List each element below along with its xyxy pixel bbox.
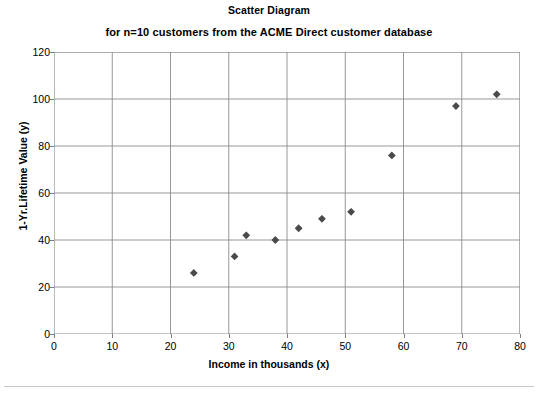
data-point-marker	[296, 225, 302, 231]
y-axis-tick-label: 0	[10, 329, 50, 339]
y-axis-tick-label: 120	[10, 47, 50, 57]
data-point-marker	[453, 103, 459, 109]
x-axis-tick-mark	[229, 334, 230, 338]
y-axis-tick-mark	[50, 240, 54, 241]
x-axis-tick-mark	[345, 334, 346, 338]
data-point-marker	[272, 237, 278, 243]
x-axis-tick-mark	[171, 334, 172, 338]
plot-area	[54, 52, 520, 334]
x-axis-tick-label: 50	[325, 341, 365, 351]
chart-title: Scatter Diagram	[0, 4, 538, 16]
x-axis-tick-mark	[54, 334, 55, 338]
y-axis-tick-label: 20	[10, 282, 50, 292]
x-axis-tick-label: 0	[34, 341, 74, 351]
x-axis-tick-label: 20	[151, 341, 191, 351]
y-axis-tick-mark	[50, 146, 54, 147]
x-axis-tick-label: 70	[442, 341, 482, 351]
y-axis-tick-mark	[50, 193, 54, 194]
y-axis-tick-label: 40	[10, 235, 50, 245]
data-point-marker	[243, 232, 249, 238]
data-point-marker	[494, 91, 500, 97]
x-axis-tick-mark	[520, 334, 521, 338]
x-axis-tick-mark	[404, 334, 405, 338]
x-axis-tick-labels: 01020304050607080	[0, 341, 538, 357]
x-axis-tick-label: 30	[209, 341, 249, 351]
data-point-marker	[348, 209, 354, 215]
data-point-marker	[191, 270, 197, 276]
data-point-marker	[319, 216, 325, 222]
y-axis-tick-mark	[50, 52, 54, 53]
scatter-chart-figure: Scatter Diagram for n=10 customers from …	[0, 0, 538, 396]
x-axis-title: Income in thousands (x)	[0, 358, 538, 370]
footer-divider	[4, 386, 534, 387]
data-point-marker	[389, 152, 395, 158]
y-axis-tick-mark	[50, 99, 54, 100]
y-axis-tick-mark	[50, 287, 54, 288]
y-axis-title: 1-Yr.Lifetime Value (y)	[17, 96, 29, 256]
y-axis-tick-label: 60	[10, 188, 50, 198]
y-axis-tick-label: 100	[10, 94, 50, 104]
x-axis-tick-label: 40	[267, 341, 307, 351]
x-axis-tick-mark	[287, 334, 288, 338]
x-axis-tick-label: 10	[92, 341, 132, 351]
x-axis-tick-mark	[462, 334, 463, 338]
plot-svg	[54, 52, 520, 334]
y-axis-tick-label: 80	[10, 141, 50, 151]
chart-subtitle: for n=10 customers from the ACME Direct …	[0, 26, 538, 38]
x-axis-tick-label: 60	[384, 341, 424, 351]
data-point-marker	[231, 253, 237, 259]
x-axis-tick-mark	[112, 334, 113, 338]
x-axis-tick-label: 80	[500, 341, 538, 351]
